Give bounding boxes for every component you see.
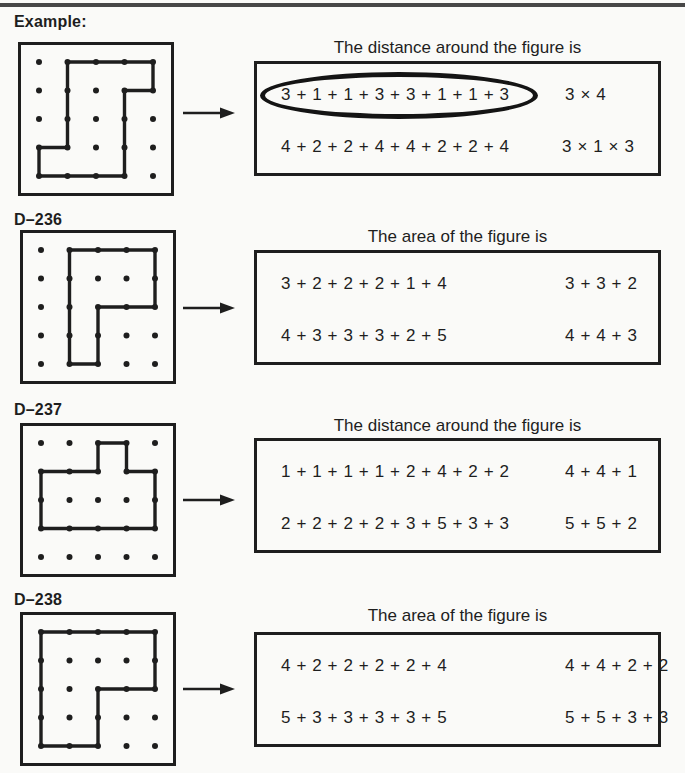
option-expression: 4 + 2 + 2 + 4 + 4 + 2 + 2 + 4 (281, 137, 510, 156)
option-expression: 4 + 4 + 1 (565, 462, 638, 481)
geoboard-figure-d238 (20, 612, 176, 766)
option-expression: 4 + 4 + 2 + 2 (565, 656, 669, 675)
option-expression: 1 + 1 + 1 + 1 + 2 + 4 + 2 + 2 (281, 462, 510, 481)
geoboard-grid (23, 233, 173, 381)
option-expression: 2 + 2 + 2 + 2 + 3 + 5 + 3 + 3 (281, 514, 510, 533)
geoboard-grid (23, 615, 173, 763)
answer-box-example: 3 + 1 + 1 + 3 + 3 + 1 + 1 + 3 3 × 4 4 + … (254, 61, 661, 176)
answer-box-title: The distance around the figure is (254, 416, 661, 436)
geoboard-figure-example (18, 42, 174, 196)
right-arrow-icon (183, 493, 235, 507)
option-expression: 3 × 4 (565, 85, 606, 104)
right-arrow-icon (183, 106, 235, 120)
geoboard-grid (21, 45, 171, 193)
option-expression: 4 + 4 + 3 (565, 326, 638, 345)
option-expression: 3 + 3 + 2 (565, 274, 638, 293)
section-label-d238: D–238 (14, 591, 62, 609)
geoboard-grid (23, 426, 173, 574)
geoboard-figure-d237 (20, 423, 176, 577)
option-expression: 5 + 5 + 3 + 3 (565, 708, 669, 727)
answer-box-d238: 4 + 2 + 2 + 2 + 2 + 4 4 + 4 + 2 + 2 5 + … (254, 632, 661, 747)
option-expression: 3 × 1 × 3 (562, 137, 635, 156)
option-expression: 4 + 3 + 3 + 3 + 2 + 5 (281, 326, 447, 345)
option-expression: 3 + 1 + 1 + 3 + 3 + 1 + 1 + 3 (281, 85, 510, 104)
geoboard-figure-d236 (20, 230, 176, 384)
section-label-d236: D–236 (14, 211, 62, 229)
answer-box-d236: 3 + 2 + 2 + 2 + 1 + 4 3 + 3 + 2 4 + 3 + … (254, 250, 661, 365)
answer-box-title: The area of the figure is (254, 606, 661, 626)
option-expression: 5 + 5 + 2 (565, 514, 638, 533)
option-expression: 3 + 2 + 2 + 2 + 1 + 4 (281, 274, 447, 293)
option-expression: 5 + 3 + 3 + 3 + 3 + 5 (281, 708, 447, 727)
right-arrow-icon (183, 301, 235, 315)
page-top-rule (0, 3, 685, 7)
answer-box-d237: 1 + 1 + 1 + 1 + 2 + 4 + 2 + 2 4 + 4 + 1 … (254, 438, 661, 553)
answer-box-title: The area of the figure is (254, 227, 661, 247)
right-arrow-icon (183, 682, 235, 696)
worksheet-page: Example: The distance around the figure … (0, 0, 685, 773)
answer-box-title: The distance around the figure is (254, 38, 661, 58)
section-label-example: Example: (14, 13, 87, 31)
option-expression: 4 + 2 + 2 + 2 + 2 + 4 (281, 656, 447, 675)
section-label-d237: D–237 (14, 401, 62, 419)
